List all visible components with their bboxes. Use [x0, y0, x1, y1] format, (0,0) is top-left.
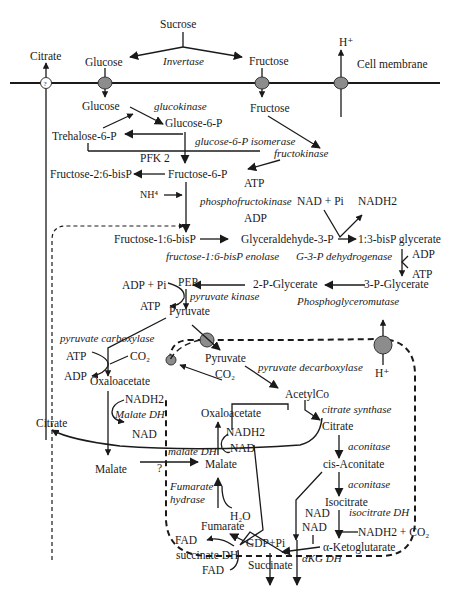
- fructose-6-p-label: Fructose-6-P: [168, 168, 227, 180]
- fad-1-label: FAD: [175, 534, 197, 546]
- adp-carboxylase-label: ADP: [64, 370, 87, 382]
- fructokinase-label: fructokinase: [274, 147, 328, 159]
- malate-mitochondrion-label: Malate: [205, 458, 237, 470]
- glucose-transporter-icon: [98, 77, 112, 89]
- phosphoglyceromutase-label: Phosphoglyceromutase: [296, 295, 399, 307]
- co2-mitochondrion-label: CO₂: [215, 368, 235, 380]
- fructose-2-6-bisp-label: Fructose-2:6-bisP: [50, 168, 132, 180]
- fumarate-hydrase-label-2: hydrase: [170, 493, 205, 505]
- fructose-transporter-icon: [255, 77, 269, 89]
- nad-pi-label: NAD + Pi: [297, 195, 344, 207]
- succinate-dh-label: succinate DH: [176, 549, 238, 561]
- fad-2-label: FAD: [202, 564, 224, 576]
- atp-pfk-label: ATP: [244, 177, 264, 189]
- fumarate-hydrase-label-1: Fumarate: [169, 480, 214, 492]
- glucose-label: Glucose: [82, 100, 120, 112]
- glucose-6-p-isomerase-label: glucose-6-P isomerase: [195, 135, 295, 147]
- invertase-label: Invertase: [162, 55, 204, 67]
- pfk2-label: PFK 2: [140, 152, 170, 164]
- g-3-p-dehydrogenase-label: G-3-P dehydrogenase: [296, 250, 392, 262]
- citrate-synthase-label: citrate synthase: [322, 403, 391, 415]
- citrate-cytosol-label: Citrate: [36, 417, 67, 429]
- h-plus-mitochondrion-label: H⁺: [375, 367, 389, 379]
- isocitrate-dh-label: isocitrate DH: [349, 506, 410, 518]
- nadh2-glycolysis-label: NADH2: [358, 195, 397, 207]
- nadh2-co2-label: NADH2 + CO₂: [358, 526, 429, 538]
- mitochondrial-proton-pump-icon: [374, 336, 392, 354]
- citrate-mitochondrion-label: Citrate: [322, 420, 353, 432]
- aconitase-2-label: aconitase: [348, 478, 390, 490]
- oxaloacetate-mitochondrion-label: Oxaloacetate: [201, 407, 261, 419]
- pyruvate-carboxylase-label: pyruvate carboxylase: [59, 332, 154, 344]
- pyruvate-transporter-icon: [200, 333, 214, 347]
- fructose-1-6-bisp-label: Fructose-1:6-bisP: [114, 233, 196, 245]
- metabolic-pathway-diagram: Cell membrane Sucrose Invertase Glucose …: [0, 0, 453, 599]
- glucose-extracellular-label: Glucose: [85, 56, 123, 68]
- pep-label: PEP: [178, 276, 198, 288]
- atp-carboxylase-label: ATP: [66, 350, 86, 362]
- nad-cytosol-label: NAD: [132, 428, 157, 440]
- nadh2-mitochondrion-label: NADH2: [226, 426, 265, 438]
- cell-membrane-label: Cell membrane: [357, 58, 428, 70]
- adp-pi-label: ADP + Pi: [122, 279, 166, 291]
- nh4-label: NH⁴: [140, 189, 158, 200]
- 3-p-glycerate-label: 3-P-Glycerate: [364, 278, 429, 291]
- pyruvate-mitochondrion-label: Pyruvate: [205, 352, 246, 365]
- acetylco-label: AcetylCo: [285, 388, 329, 401]
- pyruvate-decarboxylase-label: pyruvate decarboxylase: [257, 361, 363, 373]
- nad-isocitrate-label: NAD: [305, 507, 330, 519]
- oxaloacetate-cytosol-label: Oxaloacetate: [90, 375, 150, 387]
- aconitase-1-label: aconitase: [348, 440, 390, 452]
- malate-dh-cytosol-label: Malate DH: [114, 408, 166, 420]
- h-plus-extracellular-label: H⁺: [339, 36, 353, 48]
- nad-mitochondrion-label: NAD: [230, 442, 255, 454]
- gdp-pi-label: GDP+Pi: [246, 537, 285, 549]
- 2-p-glycerate-label: 2-P-Glycerate: [253, 278, 318, 291]
- malate-dh-mitochondrion-label: malate DH: [168, 445, 218, 457]
- co2-carboxylase-label: CO₂: [130, 350, 150, 362]
- atp-pyruvate-kinase-label: ATP: [140, 300, 160, 312]
- pyruvate-label: Pyruvate: [169, 305, 210, 318]
- citrate-extracellular-label: Citrate: [30, 50, 61, 62]
- unknown-transporter-mark: ?: [44, 80, 47, 88]
- nadh2-cytosol-label: NADH2: [125, 393, 164, 405]
- pyruvate-kinase-label: pyruvate kinase: [189, 290, 259, 302]
- unknown-transport-mark: ?: [157, 462, 162, 474]
- nad-akg-label: NAD: [302, 521, 327, 533]
- malate-cytosol-label: Malate: [95, 463, 127, 475]
- akg-dh-label: αKG DH: [302, 552, 343, 564]
- fructose-extracellular-label: Fructose: [249, 55, 289, 67]
- sucrose-label: Sucrose: [160, 18, 196, 30]
- 1-3-bisp-glycerate-label: 1:3-bisP glycerate: [358, 233, 441, 246]
- cis-aconitate-label: cis-Aconitate: [323, 458, 384, 470]
- adp-glycolysis-label: ADP: [412, 248, 435, 260]
- glucokinase-label: glucokinase: [154, 100, 207, 112]
- fructose-1-6-bisp-enolase-label: fructose-1:6-bisP enolase: [166, 250, 279, 262]
- proton-pump-icon: [334, 77, 348, 89]
- trehalose-6-p-label: Trehalose-6-P: [52, 130, 117, 142]
- fructose-label: Fructose: [250, 102, 290, 114]
- fumarate-label: Fumarate: [201, 520, 244, 532]
- co2-transporter-icon: [166, 355, 176, 365]
- glucose-6-p-label: Glucose-6-P: [165, 117, 223, 129]
- adp-pfk-label: ADP: [244, 212, 267, 224]
- phosphofructokinase-label: phosphofructokinase: [199, 195, 292, 207]
- glyceraldehyde-3-p-label: Glyceraldehyde-3-P: [241, 233, 334, 246]
